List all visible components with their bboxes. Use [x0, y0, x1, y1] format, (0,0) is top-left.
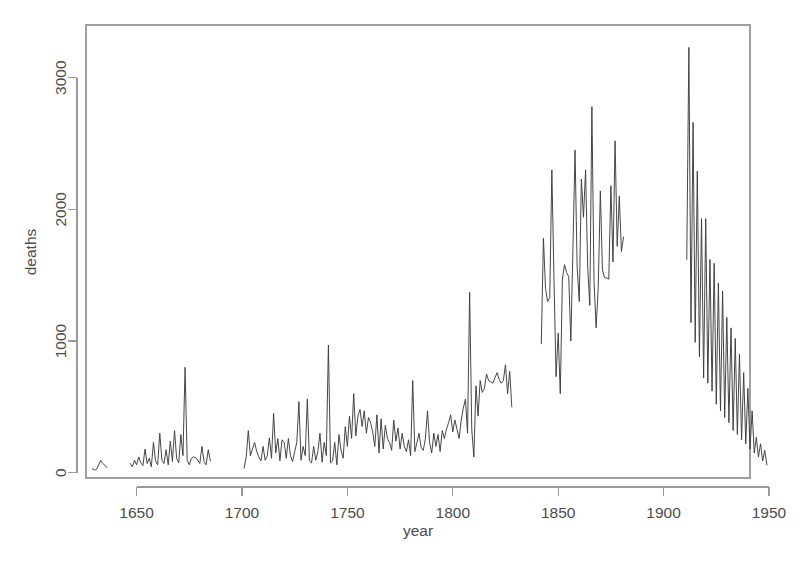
- y-axis-tick-label: 2000: [52, 192, 69, 227]
- x-axis-tick-label: 1650: [119, 504, 154, 521]
- x-axis-tick-label: 1950: [752, 504, 787, 521]
- chart-container: 1650170017501800185019001950 01000200030…: [0, 0, 801, 568]
- chart-background: [0, 0, 801, 568]
- x-axis-tick-label: 1800: [436, 504, 471, 521]
- y-axis-title: deaths: [22, 228, 39, 275]
- x-axis-tick-label: 1700: [225, 504, 260, 521]
- x-axis-tick-label: 1900: [646, 504, 681, 521]
- deaths-year-line-chart: 1650170017501800185019001950 01000200030…: [0, 0, 801, 568]
- y-axis-tick-label: 0: [52, 468, 69, 477]
- y-axis-tick-label: 1000: [52, 323, 69, 358]
- x-axis-tick-label: 1850: [541, 504, 576, 521]
- x-axis-tick-label: 1750: [330, 504, 365, 521]
- x-axis-title: year: [403, 522, 433, 539]
- y-axis-tick-label: 3000: [52, 60, 69, 95]
